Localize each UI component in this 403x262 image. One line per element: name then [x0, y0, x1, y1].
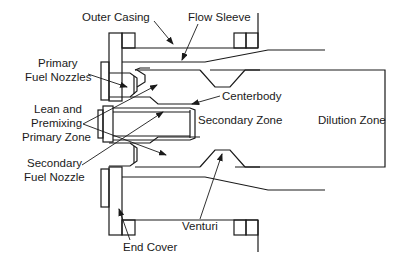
arrow-centerbody	[192, 96, 220, 104]
label-centerbody: Centerbody	[222, 90, 282, 102]
arrow-premix-top	[83, 85, 157, 124]
label-flow-sleeve: Flow Sleeve	[188, 11, 251, 23]
label-primary-fuel-nozzles-1: Primary	[38, 57, 78, 69]
label-end-cover: End Cover	[123, 241, 178, 253]
label-lean-premix-2: Premixing	[31, 117, 82, 129]
label-dilution-zone: Dilution Zone	[318, 114, 386, 126]
arrow-primary-fuel-nozzles	[88, 74, 127, 87]
arrow-secondary-fuel-nozzle	[82, 112, 163, 165]
arrow-flow-sleeve	[182, 24, 198, 60]
label-secondary-fuel-nozzle-1: Secondary	[27, 157, 82, 169]
label-secondary-fuel-nozzle-2: Fuel Nozzle	[24, 171, 85, 183]
label-outer-casing: Outer Casing	[82, 11, 150, 23]
arrow-outer-casing	[154, 21, 173, 44]
label-secondary-zone: Secondary Zone	[198, 114, 282, 126]
primary-fuel-nozzle-bottom	[109, 137, 200, 166]
label-lean-premix-1: Lean and	[34, 103, 82, 115]
combustor-diagram: Outer Casing Flow Sleeve Primary Fuel No…	[0, 0, 403, 262]
label-venturi: Venturi	[182, 220, 218, 232]
label-primary-fuel-nozzles-2: Fuel Nozzles	[25, 71, 92, 83]
label-lean-premix-3: Primary Zone	[22, 131, 91, 143]
